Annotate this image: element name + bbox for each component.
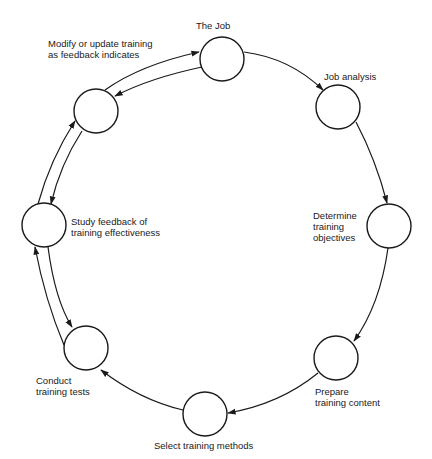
edge-job-to-job-analysis [244, 52, 323, 90]
edge-job-to-modify [115, 67, 202, 96]
node-study-feedback [22, 203, 66, 247]
label-determine-objectives: Determine training objectives [313, 210, 357, 243]
label-line: Conduct [36, 375, 90, 386]
node-the-job [200, 37, 244, 81]
edge-study-to-modify [38, 121, 75, 204]
edge-prepare-to-select [228, 373, 318, 413]
label-line: Select training methods [154, 440, 253, 451]
label-select-methods: Select training methods [154, 440, 253, 451]
label-line: The Job [196, 20, 230, 31]
label-line: training tests [36, 386, 90, 397]
label-line: Study feedback of [71, 216, 160, 227]
edge-study-to-conduct [48, 247, 72, 327]
node-select-methods [183, 392, 227, 436]
label-modify-update: Modify or update training as feedback in… [48, 38, 153, 60]
label-prepare-content: Prepare training content [315, 386, 380, 408]
label-line: Job analysis [324, 71, 376, 82]
node-job-analysis [316, 85, 360, 129]
node-conduct-tests [64, 326, 108, 370]
label-the-job: The Job [196, 20, 230, 31]
edge-objectives-to-prepare [354, 248, 388, 341]
label-conduct-tests: Conduct training tests [36, 375, 90, 397]
label-line: training [313, 221, 357, 232]
edge-select-to-conduct [101, 370, 183, 410]
label-line: training effectiveness [71, 227, 160, 238]
label-line: Prepare [315, 386, 380, 397]
node-determine-objectives [367, 204, 411, 248]
label-job-analysis: Job analysis [324, 71, 376, 82]
label-line: Modify or update training [48, 38, 153, 49]
edge-conduct-to-study [35, 247, 64, 345]
label-line: objectives [313, 232, 357, 243]
edge-job-analysis-to-objectives [356, 122, 387, 203]
label-line: Determine [313, 210, 357, 221]
edge-modify-to-study [51, 131, 82, 204]
label-line: training content [315, 397, 380, 408]
label-line: as feedback indicates [48, 49, 153, 60]
node-prepare-content [314, 336, 358, 380]
label-study-feedback: Study feedback of training effectiveness [71, 216, 160, 238]
node-modify-update [74, 89, 118, 133]
